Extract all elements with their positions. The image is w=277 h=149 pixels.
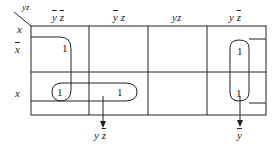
col-header-ybar-zbar: y z bbox=[52, 12, 64, 23]
cell-r0-c3: 1 bbox=[237, 46, 243, 57]
col-header-y-zbar: y z bbox=[229, 12, 241, 23]
cell-r1-c3: 1 bbox=[236, 88, 242, 99]
cell-r0-c0: 1 bbox=[62, 43, 68, 54]
row-header-xbar: x bbox=[15, 44, 20, 55]
col-header-ybar-z: y z bbox=[113, 12, 125, 23]
term-label-y-zbar: y z bbox=[94, 130, 106, 141]
col-header-yz: yz bbox=[172, 12, 181, 23]
cell-r1-c0: 1 bbox=[57, 87, 63, 98]
row-header-x: x bbox=[15, 88, 20, 99]
corner-label-yz: yz bbox=[22, 2, 30, 13]
cell-r1-c1: 1 bbox=[117, 87, 123, 98]
corner-label-x: x bbox=[17, 24, 22, 35]
group-loop-row-x bbox=[52, 83, 137, 101]
term-label-ybar: y bbox=[237, 130, 242, 141]
